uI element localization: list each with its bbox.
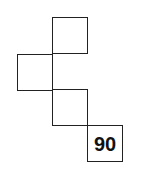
square-bottom-right: 90 [87,125,123,162]
square-top [52,17,88,54]
square-left [17,54,53,91]
square-middle [52,89,88,126]
square-bottom-right-label: 90 [94,134,116,154]
